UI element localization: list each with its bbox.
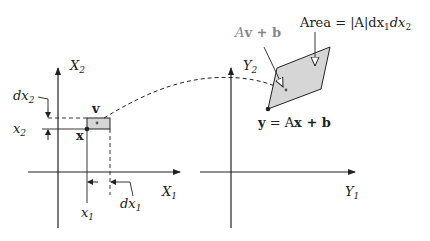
dx1-leader (118, 182, 133, 196)
mapped-vertex-marker (285, 89, 288, 92)
point-x-label: x (76, 128, 84, 143)
dx1-label: dx1 (120, 196, 141, 213)
mapping-curve (104, 77, 280, 118)
area-label: Area = |A|dx1dx2 (299, 15, 411, 32)
right-coordinate-system: Y2 Y1 Av + b Area = |A|dx1dx2 y = Ax + b (200, 15, 411, 228)
y1-axis-label: Y1 (345, 184, 359, 201)
area-element-rect (87, 118, 110, 129)
transformed-parallelogram (268, 47, 330, 109)
vertex-v-label: v (91, 101, 100, 116)
av-plus-b-label: Av + b (234, 25, 281, 40)
left-coordinate-system: X2 X1 dx2 x2 x1 dx1 x v (13, 58, 180, 228)
point-y-dot (266, 107, 271, 112)
y-equals-ax-plus-b-label: y = Ax + b (257, 115, 331, 130)
x1-axis-label: X1 (161, 184, 177, 201)
point-x-dot (85, 127, 90, 132)
y2-axis-label: Y2 (243, 58, 258, 75)
linear-transform-diagram: X2 X1 dx2 x2 x1 dx1 x v Y2 Y1 Av + b Are… (0, 0, 430, 241)
vertex-v-marker (96, 122, 99, 125)
dx2-label: dx2 (13, 88, 35, 105)
x2-axis-label: X2 (69, 58, 85, 75)
dx2-leader (38, 97, 48, 108)
x1-label: x1 (81, 205, 94, 222)
x2-label: x2 (13, 121, 26, 138)
